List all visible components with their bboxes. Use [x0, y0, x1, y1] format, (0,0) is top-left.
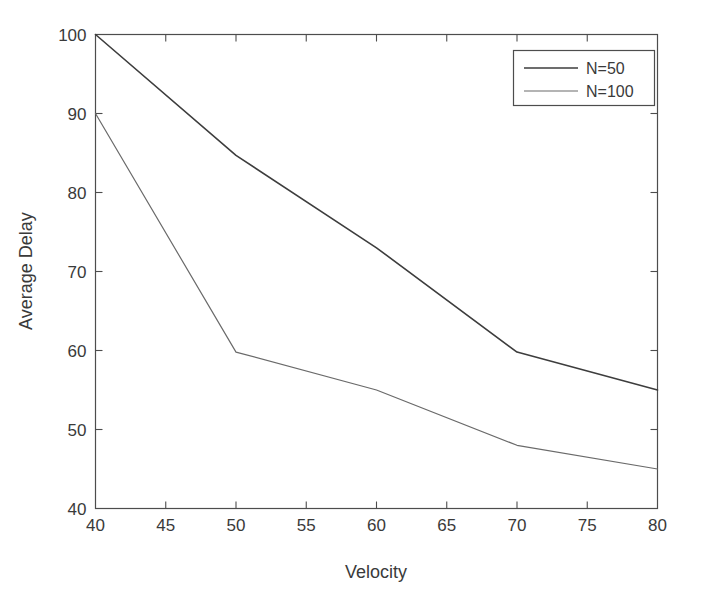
x-axis-tick-labels: 404550556065707580 — [86, 516, 667, 535]
y-tick-label: 70 — [68, 263, 87, 282]
line-chart: 404550556065707580 405060708090100 Veloc… — [0, 0, 715, 608]
x-tick-label: 60 — [367, 516, 386, 535]
chart-legend[interactable]: N=50 N=100 — [514, 51, 655, 106]
x-tick-label: 40 — [86, 516, 105, 535]
y-tick-label: 60 — [68, 342, 87, 361]
y-tick-label: 100 — [58, 26, 86, 45]
x-tick-label: 65 — [437, 516, 456, 535]
x-tick-label: 55 — [297, 516, 316, 535]
y-tick-label: 80 — [68, 184, 87, 203]
y-tick-label: 90 — [68, 105, 87, 124]
legend-label: N=100 — [586, 83, 634, 100]
y-tick-label: 50 — [68, 421, 87, 440]
x-tick-label: 45 — [156, 516, 175, 535]
chart-figure: 404550556065707580 405060708090100 Veloc… — [0, 0, 715, 608]
y-axis-title: Average Delay — [16, 212, 36, 330]
x-tick-label: 50 — [227, 516, 246, 535]
x-tick-label: 80 — [648, 516, 667, 535]
legend-label: N=50 — [586, 60, 625, 77]
x-tick-label: 70 — [508, 516, 527, 535]
y-tick-label: 40 — [68, 500, 87, 519]
x-axis-title: Velocity — [345, 562, 407, 582]
x-tick-label: 75 — [578, 516, 597, 535]
